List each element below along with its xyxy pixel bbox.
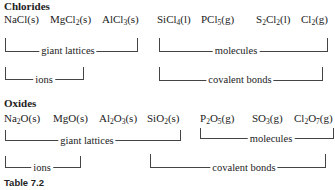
- table-caption: Table 7.2: [4, 177, 44, 188]
- oxides-heading: Oxides: [4, 97, 36, 109]
- oxides-molecules-label: molecules: [248, 133, 295, 144]
- oxides-ions-label: ions: [31, 162, 53, 173]
- chlorides-molecules-label: molecules: [213, 45, 260, 56]
- formula-cl2: Cl2(g): [301, 13, 328, 25]
- oxides-giant-lattices-label: giant lattices: [58, 135, 115, 146]
- chlorides-ions-label: ions: [33, 74, 55, 85]
- formula-na2o: Na2O(s): [4, 112, 40, 124]
- formula-mgcl2: MgCl2(s): [50, 13, 91, 25]
- chlorides-covalent-bonds-label: covalent bonds: [206, 74, 273, 85]
- formula-pcl5: PCl5(g): [201, 13, 234, 25]
- formula-sicl4: SiCl4(l): [157, 13, 191, 25]
- formula-so3: SO3(g): [252, 112, 283, 124]
- formula-cl2o7: Cl2O7(g): [294, 112, 333, 124]
- formula-alcl3: AlCl3(s): [102, 13, 139, 25]
- formula-al2o3: Al2O3(s): [99, 112, 137, 124]
- formula-nacl: NaCl(s): [4, 13, 39, 25]
- formula-p2o5: P2O5(g): [200, 112, 234, 124]
- formula-sio2: SiO2(s): [147, 112, 179, 124]
- chlorides-giant-lattices-label: giant lattices: [39, 45, 96, 56]
- formula-mgo: MgO(s): [53, 112, 88, 124]
- formula-s2cl2: S2Cl2(l): [256, 13, 290, 25]
- oxides-covalent-bonds-label: covalent bonds: [210, 162, 277, 173]
- chlorides-heading: Chlorides: [4, 0, 50, 12]
